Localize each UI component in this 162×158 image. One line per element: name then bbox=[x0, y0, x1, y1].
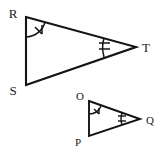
vertex-label-r: R bbox=[9, 6, 18, 21]
vertex-label-s: S bbox=[9, 83, 16, 98]
triangle-rst: R S T bbox=[9, 6, 150, 98]
vertex-label-p: P bbox=[75, 136, 81, 148]
angle-mark-t bbox=[99, 38, 110, 57]
angle-mark-r bbox=[26, 22, 45, 37]
angle-arc-q bbox=[121, 113, 122, 125]
geometry-canvas: R S T O P Q bbox=[0, 0, 162, 158]
vertex-label-o: O bbox=[76, 90, 84, 102]
vertex-label-t: T bbox=[142, 40, 150, 55]
vertex-label-q: Q bbox=[146, 114, 154, 126]
angle-mark-o bbox=[89, 106, 101, 114]
angle-arc-t bbox=[103, 38, 104, 57]
geometry-figure: R S T O P Q bbox=[0, 0, 162, 158]
triangle-opq: O P Q bbox=[75, 90, 154, 148]
triangle-opq-outline bbox=[89, 101, 140, 136]
